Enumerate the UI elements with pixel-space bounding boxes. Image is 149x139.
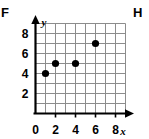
data-point (52, 60, 59, 67)
axis-names: xy (40, 16, 127, 137)
x-tick-label: 8 (112, 123, 119, 137)
x-tick-label: 4 (72, 123, 79, 137)
grid (36, 24, 126, 114)
y-tick-label: 4 (22, 67, 29, 81)
x-axis-tick-labels: 02468 (32, 123, 119, 137)
y-axis-label: y (40, 16, 47, 28)
y-axis-tick-labels: 2468 (22, 27, 29, 101)
x-tick-label: 2 (52, 123, 59, 137)
data-point (92, 40, 99, 47)
axes (31, 15, 134, 118)
scatter-plot: 02468 2468 xy (0, 0, 149, 139)
y-tick-label: 6 (22, 47, 29, 61)
x-tick-label: 6 (92, 123, 99, 137)
x-axis-arrowhead (125, 109, 134, 117)
x-axis-label: x (119, 125, 126, 137)
y-tick-label: 2 (22, 87, 29, 101)
x-tick-label: 0 (32, 123, 39, 137)
data-point (42, 70, 49, 77)
data-point (72, 60, 79, 67)
answer-choice-figure: F H 02468 2468 xy (0, 0, 149, 139)
y-tick-label: 8 (22, 27, 29, 41)
y-axis-arrowhead (31, 15, 39, 24)
data-points (42, 40, 99, 77)
